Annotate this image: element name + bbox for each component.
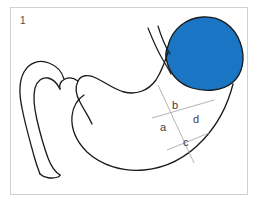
stomach-lesser-curvature <box>76 52 168 124</box>
region-label-d: d <box>193 114 199 125</box>
fundus-shape <box>166 17 243 90</box>
duodenum-lower-turn <box>40 174 60 178</box>
region-label-c: c <box>183 137 189 148</box>
region-label-b: b <box>172 100 178 111</box>
stomach-greater-curvature <box>72 84 233 170</box>
duodenum-inner-wall <box>34 78 60 175</box>
figure-panel: 1 a b c d <box>0 0 255 207</box>
divider-horizontal-upper <box>152 100 214 118</box>
stomach-diagram <box>0 0 255 207</box>
esophagus-right-wall <box>158 26 170 54</box>
figure-number: 1 <box>20 16 26 26</box>
region-label-a: a <box>160 122 166 133</box>
pylorus-notch <box>60 78 78 89</box>
